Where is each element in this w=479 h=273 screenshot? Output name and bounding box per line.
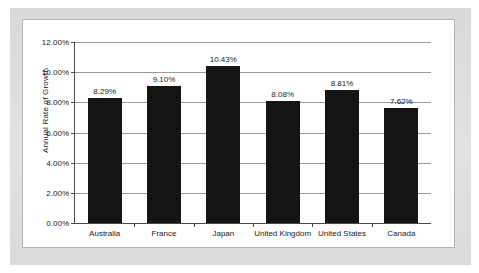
x-category-label: Canada — [387, 229, 415, 238]
y-tick-label: 10.00% — [42, 68, 69, 77]
y-tick-label: 0.00% — [46, 219, 69, 228]
y-tick-mark — [71, 223, 75, 224]
bar-value-label: 10.43% — [210, 55, 237, 64]
bar-slot: 8.08% — [253, 42, 312, 223]
bar-slot: 8.29% — [75, 42, 134, 223]
y-tick-label: 4.00% — [46, 158, 69, 167]
bar-value-label: 8.29% — [93, 87, 116, 96]
bar-value-label: 7.62% — [390, 97, 413, 106]
chart-screenshot: Annual Rate of Growth 0.00%2.00%4.00%6.0… — [0, 0, 479, 273]
x-tick-mark — [312, 223, 313, 227]
y-tick-label: 6.00% — [46, 128, 69, 137]
bar[interactable] — [88, 98, 122, 223]
y-tick-label: 8.00% — [46, 98, 69, 107]
bar-value-label: 8.08% — [271, 90, 294, 99]
bar[interactable] — [384, 108, 418, 223]
bar-value-label: 9.10% — [153, 75, 176, 84]
bar[interactable] — [147, 86, 181, 223]
chart-card: Annual Rate of Growth 0.00%2.00%4.00%6.0… — [22, 19, 455, 248]
plot-area: 0.00%2.00%4.00%6.00%8.00%10.00%12.00% 8.… — [75, 42, 431, 223]
x-category-label: United Kingdom — [254, 229, 311, 238]
bar[interactable] — [266, 101, 300, 223]
y-tick-label: 12.00% — [42, 38, 69, 47]
bar-slot: 9.10% — [134, 42, 193, 223]
x-category-label: United States — [318, 229, 366, 238]
x-tick-mark — [372, 223, 373, 227]
bar-slot: 8.81% — [312, 42, 371, 223]
x-category-label: Japan — [212, 229, 234, 238]
bar[interactable] — [325, 90, 359, 223]
x-tick-mark — [134, 223, 135, 227]
bar-slot: 7.62% — [372, 42, 431, 223]
y-tick-label: 2.00% — [46, 188, 69, 197]
x-category-label: Australia — [89, 229, 120, 238]
x-tick-mark — [194, 223, 195, 227]
bar-slot: 10.43% — [194, 42, 253, 223]
bar[interactable] — [206, 66, 240, 223]
x-tick-mark — [253, 223, 254, 227]
bar-value-label: 8.81% — [331, 79, 354, 88]
plot-wrapper: Annual Rate of Growth 0.00%2.00%4.00%6.0… — [23, 20, 456, 249]
x-category-label: France — [152, 229, 177, 238]
